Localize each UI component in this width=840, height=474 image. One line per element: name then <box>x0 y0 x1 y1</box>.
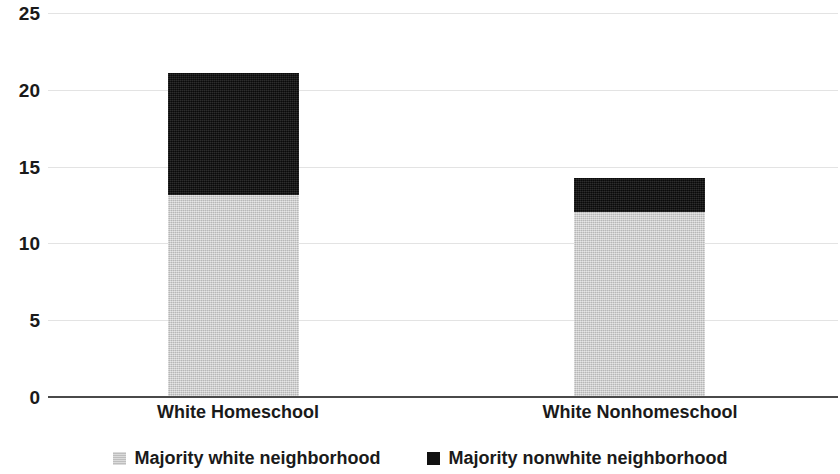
x-axis-label-white-nonhomeschool: White Nonhomeschool <box>490 402 790 424</box>
gridline-5 <box>48 320 838 321</box>
x-axis-label-white-homeschool: White Homeschool <box>88 402 388 424</box>
bar-segment-majority-white-neighborhood <box>574 212 705 396</box>
stacked-bar-chart: 25 20 15 10 5 0 White Homeschool White N… <box>0 0 840 474</box>
gridline-25 <box>48 13 838 14</box>
bar-segment-majority-white-neighborhood <box>168 195 299 396</box>
legend-item-majority-white-neighborhood: Majority white neighborhood <box>113 448 381 469</box>
gridline-10 <box>48 243 838 244</box>
y-axis-tick-25: 25 <box>0 4 40 23</box>
bar-segment-majority-nonwhite-neighborhood <box>168 73 299 196</box>
y-axis-tick-20: 20 <box>0 81 40 100</box>
legend-label-majority-white-neighborhood: Majority white neighborhood <box>135 448 381 469</box>
y-axis-tick-15: 15 <box>0 158 40 177</box>
y-axis-tick-0: 0 <box>0 388 40 407</box>
legend-item-majority-nonwhite-neighborhood: Majority nonwhite neighborhood <box>427 448 728 469</box>
legend-swatch-nonwhite-icon <box>427 452 440 465</box>
x-axis-line <box>48 396 838 398</box>
chart-legend: Majority white neighborhood Majority non… <box>0 448 840 469</box>
y-axis-tick-10: 10 <box>0 234 40 253</box>
gridline-15 <box>48 167 838 168</box>
bar-segment-majority-nonwhite-neighborhood <box>574 178 705 212</box>
y-axis-tick-5: 5 <box>0 311 40 330</box>
plot-area <box>48 13 838 397</box>
gridline-20 <box>48 90 838 91</box>
y-axis-labels: 25 20 15 10 5 0 <box>0 13 40 397</box>
legend-label-majority-nonwhite-neighborhood: Majority nonwhite neighborhood <box>449 448 728 469</box>
legend-swatch-white-icon <box>113 452 126 465</box>
